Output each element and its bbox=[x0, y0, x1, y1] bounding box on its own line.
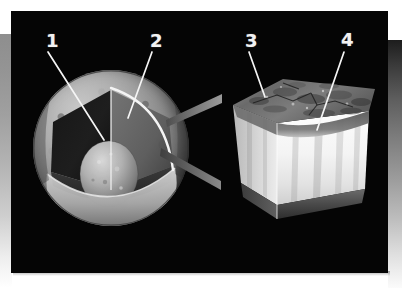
diagram-page: 1 2 3 4 bbox=[0, 0, 402, 288]
sphere-surface-texture bbox=[33, 70, 189, 226]
regolith-band-front bbox=[277, 111, 369, 137]
block-top-surface bbox=[233, 79, 375, 123]
illustration-plate: 1 2 3 4 bbox=[11, 11, 388, 273]
block-front-face bbox=[277, 111, 369, 205]
callout-label-1: 1 bbox=[46, 32, 59, 50]
callout-label-2: 2 bbox=[150, 32, 163, 50]
crust-block-svg bbox=[219, 71, 379, 221]
regolith-band-side bbox=[233, 105, 277, 135]
callout-label-3: 3 bbox=[245, 32, 258, 50]
block-top-texture bbox=[249, 82, 371, 117]
block-front-streaks bbox=[291, 115, 361, 202]
block-base-front bbox=[277, 189, 365, 219]
block-top-fissures bbox=[253, 83, 353, 115]
cutaway-sphere-figure bbox=[33, 70, 189, 232]
block-base-side bbox=[241, 183, 277, 219]
block-side-streaks bbox=[247, 112, 267, 198]
block-side-face bbox=[233, 105, 277, 205]
callout-label-4: 4 bbox=[341, 31, 354, 49]
magnified-crust-block-figure bbox=[219, 71, 379, 221]
block-top-highlights bbox=[266, 86, 349, 109]
frame-band-right bbox=[388, 40, 402, 288]
